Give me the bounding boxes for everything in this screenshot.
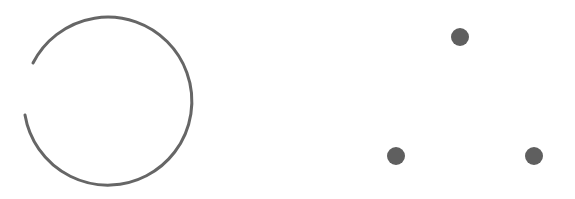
figure-canvas [0, 0, 575, 199]
dot-bottom-left [387, 147, 405, 165]
dot-bottom-right [525, 147, 543, 165]
broken-ring [25, 17, 192, 185]
dot-top [451, 28, 469, 46]
